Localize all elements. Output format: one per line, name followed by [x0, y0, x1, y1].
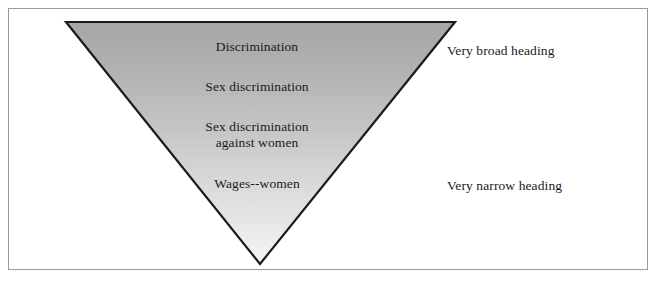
triangle-level-3-label: Sex discrimination against women	[157, 119, 357, 151]
triangle-level-2-label: Sex discrimination	[157, 79, 357, 95]
triangle-level-3-line1: Sex discrimination	[205, 119, 308, 134]
side-label-very-narrow-heading: Very narrow heading	[447, 178, 562, 194]
side-label-very-broad-heading: Very broad heading	[447, 43, 555, 59]
triangle-level-3-line2: against women	[157, 135, 357, 151]
triangle-level-4-label: Wages--women	[157, 176, 357, 192]
diagram-canvas: Discrimination Sex discrimination Sex di…	[0, 0, 656, 281]
triangle-level-1-label: Discrimination	[157, 39, 357, 55]
